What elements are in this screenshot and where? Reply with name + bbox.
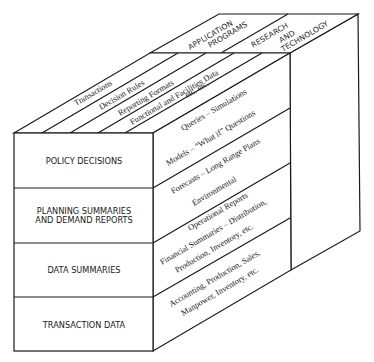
- data-cube-diagram: POLICY DECISIONS PLANNING SUMMARIES AND …: [0, 0, 374, 362]
- front-label-data-summaries: DATA SUMMARIES: [47, 265, 120, 275]
- front-label-transaction: TRANSACTION DATA: [42, 320, 126, 330]
- front-label-planning-2: AND DEMAND REPORTS: [35, 215, 132, 225]
- front-label-policy: POLICY DECISIONS: [46, 156, 123, 166]
- back-right-panel: [290, 14, 360, 270]
